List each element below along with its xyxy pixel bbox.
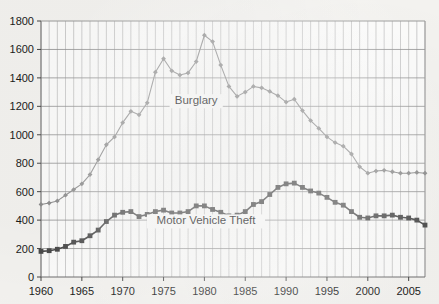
data-point (267, 192, 272, 197)
data-point (423, 223, 428, 228)
data-point (96, 228, 101, 233)
y-tick-label: 800 (16, 157, 34, 169)
data-point (71, 240, 76, 245)
data-point (406, 216, 411, 221)
data-point (161, 208, 166, 213)
chart-svg: 020040060080010001200140016001800 196019… (0, 0, 439, 304)
y-tick-label: 200 (16, 243, 34, 255)
data-point (292, 181, 297, 186)
x-tick-label: 1995 (315, 285, 339, 297)
data-point (104, 219, 109, 224)
data-point (300, 185, 305, 190)
data-point (210, 207, 215, 212)
y-tick-label: 600 (16, 186, 34, 198)
x-tick-label: 1965 (70, 285, 94, 297)
data-point (128, 209, 133, 214)
y-tick-label: 1600 (10, 43, 34, 55)
data-point (39, 249, 44, 254)
data-point (120, 210, 125, 215)
series-annotation-label: Burglary (175, 94, 218, 106)
data-point (79, 238, 84, 243)
data-point (202, 203, 207, 208)
data-point (382, 213, 387, 218)
data-point (414, 218, 419, 223)
data-point (259, 199, 264, 204)
crime-rate-chart: 020040060080010001200140016001800 196019… (0, 0, 439, 304)
data-point (374, 213, 379, 218)
data-point (398, 215, 403, 220)
x-tick-label: 2000 (356, 285, 380, 297)
data-point (316, 191, 321, 196)
y-tick-label: 1800 (10, 15, 34, 27)
data-point (137, 214, 142, 219)
y-tick-label: 1400 (10, 72, 34, 84)
x-tick-label: 1980 (192, 285, 216, 297)
x-tick-label: 1990 (274, 285, 298, 297)
x-tick-label: 1985 (233, 285, 257, 297)
data-point (194, 203, 199, 208)
data-point (55, 247, 60, 252)
y-tick-label: 1000 (10, 129, 34, 141)
data-point (390, 213, 395, 218)
data-point (243, 209, 248, 214)
data-point (251, 202, 256, 207)
y-tick-label: 0 (28, 271, 34, 283)
data-point (276, 185, 281, 190)
data-point (153, 209, 158, 214)
data-point (308, 189, 313, 194)
data-point (63, 244, 68, 249)
data-point (186, 209, 191, 214)
data-point (325, 195, 330, 200)
plot-area-background (41, 21, 425, 277)
data-point (284, 181, 289, 186)
data-point (357, 215, 362, 220)
x-tick-label: 1975 (151, 285, 175, 297)
data-point (88, 233, 93, 238)
x-tick-label: 1970 (110, 285, 134, 297)
data-point (333, 200, 338, 205)
data-point (47, 248, 52, 253)
y-tick-label: 1200 (10, 100, 34, 112)
x-tick-label: 1960 (29, 285, 53, 297)
data-point (112, 213, 117, 218)
x-tick-label: 2005 (396, 285, 420, 297)
y-tick-label: 400 (16, 214, 34, 226)
data-point (341, 203, 346, 208)
data-point (349, 209, 354, 214)
data-point (365, 216, 370, 221)
series-annotation-label: Motor Vehicle Theft (157, 214, 257, 226)
